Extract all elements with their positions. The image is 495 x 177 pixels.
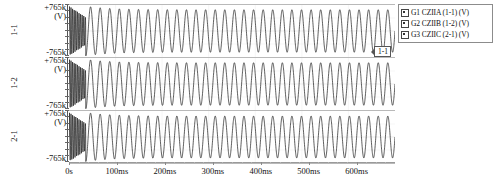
x-minor-tick (88, 162, 89, 164)
x-minor-tick (98, 162, 99, 164)
panel-2-1[interactable]: 2-1 +765k (V) -765k (0, 110, 395, 162)
panel-trace-id-2-1: 2-1 (9, 130, 19, 141)
waveform-trace-2-1 (69, 111, 395, 163)
x-tick-label: 100ms (106, 166, 129, 176)
checkbox-icon[interactable] (401, 20, 409, 28)
waveform-trace-1-1 (69, 5, 395, 57)
x-minor-tick (280, 162, 281, 164)
plot-stack: 1-1 +765k (V) -765k (0, 0, 395, 177)
waveform-chart: 1-1 +765k (V) -765k (0, 0, 495, 177)
x-minor-tick (290, 162, 291, 164)
legend-item-g1[interactable]: G1 CZIIA (1-1) (V) (401, 7, 490, 18)
x-minor-tick (203, 162, 204, 164)
x-tick-label: 200ms (154, 166, 177, 176)
x-tick (309, 162, 310, 165)
x-minor-tick (366, 162, 367, 164)
x-tick (69, 162, 70, 165)
checkbox-icon[interactable] (401, 31, 409, 39)
plot-area-1-1[interactable] (69, 4, 395, 58)
x-minor-tick (318, 162, 319, 164)
legend-item-g3[interactable]: G3 CZIIC (2-1) (V) (401, 29, 490, 40)
x-minor-tick (222, 162, 223, 164)
x-tick (357, 162, 358, 165)
checkbox-icon[interactable] (401, 9, 409, 17)
callout-1-1[interactable]: 1-1 (374, 46, 391, 57)
x-tick (261, 162, 262, 165)
legend-item-label: G1 CZIIA (1-1) (V) (411, 8, 469, 18)
panel-1-1[interactable]: 1-1 +765k (V) -765k (0, 4, 395, 56)
legend-item-g2[interactable]: G2 CZIIB (1-2) (V) (401, 18, 490, 29)
y-axis-labels-1-1: +765k (V) -765k (22, 4, 66, 56)
x-minor-tick (242, 162, 243, 164)
waveform-trace-1-2 (69, 58, 395, 110)
x-minor-tick (337, 162, 338, 164)
x-minor-tick (136, 162, 137, 164)
x-minor-tick (385, 162, 386, 164)
y-axis-labels-2-1: +765k (V) -765k (22, 110, 66, 162)
legend-item-label: G2 CZIIB (1-2) (V) (411, 19, 469, 29)
x-tick-label: 500ms (297, 166, 320, 176)
x-tick (213, 162, 214, 165)
x-minor-tick (184, 162, 185, 164)
panel-trace-id-1-1: 1-1 (9, 24, 19, 35)
panel-trace-id-1-2: 1-2 (9, 77, 19, 88)
x-minor-tick (251, 162, 252, 164)
x-minor-tick (174, 162, 175, 164)
x-minor-tick (127, 162, 128, 164)
x-axis: 0s100ms200ms300ms400ms500ms600ms (69, 162, 395, 177)
x-minor-tick (232, 162, 233, 164)
x-minor-tick (107, 162, 108, 164)
x-minor-tick (328, 162, 329, 164)
legend-box[interactable]: G1 CZIIA (1-1) (V) G2 CZIIB (1-2) (V) G3… (398, 4, 493, 43)
legend-item-label: G3 CZIIC (2-1) (V) (411, 30, 469, 40)
x-tick-label: 400ms (249, 166, 272, 176)
x-minor-tick (270, 162, 271, 164)
x-tick-label: 0s (65, 166, 73, 176)
plot-area-1-2[interactable] (69, 57, 395, 111)
x-minor-tick (194, 162, 195, 164)
x-minor-tick (299, 162, 300, 164)
y-min-label-2-1: -765k (46, 154, 66, 163)
x-tick-label: 600ms (345, 166, 368, 176)
x-tick-label: 300ms (201, 166, 224, 176)
x-minor-tick (146, 162, 147, 164)
x-minor-tick (155, 162, 156, 164)
x-minor-tick (79, 162, 80, 164)
plot-area-2-1[interactable] (69, 110, 395, 164)
panel-1-2[interactable]: 1-2 +765k (V) -765k (0, 57, 395, 109)
x-tick (117, 162, 118, 165)
x-tick (165, 162, 166, 165)
x-minor-tick (376, 162, 377, 164)
x-minor-tick (347, 162, 348, 164)
y-axis-labels-1-2: +765k (V) -765k (22, 57, 66, 109)
